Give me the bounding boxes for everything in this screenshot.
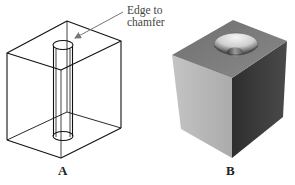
top-face-outline [7,21,121,70]
hole-top-edge [53,41,73,50]
panel-label-b: B [226,163,235,179]
callout-edge-to-chamfer: Edge to chamfer [127,4,165,28]
figure: Edge to chamfer A B [0,0,295,185]
callout-arrow [75,12,123,38]
callout-line-2: chamfer [127,16,165,28]
wireframe-block [7,21,121,158]
shaded-block [172,20,287,158]
panel-label-a: A [58,163,67,179]
callout-line-1: Edge to [127,4,165,16]
